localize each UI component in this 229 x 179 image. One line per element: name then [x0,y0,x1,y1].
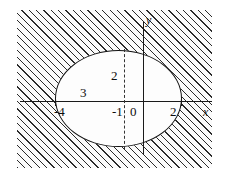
label-origin: 0 [130,105,137,118]
label-semi-axis-vertical: 2 [111,69,118,82]
label-x-left-intercept: -4 [54,105,65,118]
label-x-center: -1 [112,105,123,118]
label-semi-axis-horizontal: 3 [80,86,87,99]
ellipse-curve [55,50,182,147]
label-x-right-intercept: 2 [170,105,177,118]
x-axis-label: x [203,106,208,118]
y-axis-label: y [146,14,151,26]
tick-x-right [181,97,182,106]
figure-canvas: -4 3 -1 0 2 2 x y [0,0,229,179]
dashed-center-line [124,49,125,149]
